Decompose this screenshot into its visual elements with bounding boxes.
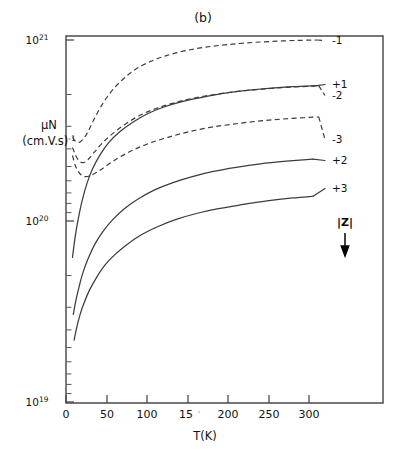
y-axis-title-line2: (cm.V.s)-1 — [22, 134, 76, 149]
series-label-+3: +3 — [332, 182, 347, 194]
x-axis-tick-labels: 0 50 100 15 200 250 300 — [63, 408, 320, 421]
series-label--2: -2 — [332, 89, 342, 101]
figure-panel-b: (b) — [0, 0, 407, 452]
curve-series-+2 — [73, 159, 313, 314]
leader-line--1 — [317, 40, 325, 41]
series-label-+1: +1 — [332, 78, 347, 90]
leader-line-+1 — [317, 85, 325, 86]
curve-series--1 — [72, 40, 317, 142]
leader-line-+3 — [313, 189, 325, 197]
ytick-label-1e19: 1019 — [26, 395, 49, 409]
curve-series--2 — [72, 86, 318, 163]
xtick-label-200: 200 — [218, 408, 239, 421]
xtick-label-100: 100 — [137, 408, 158, 421]
leader-line-+2 — [313, 159, 325, 160]
x-axis-title: T(K) — [192, 429, 217, 443]
curve-series--3 — [72, 117, 318, 177]
z-direction-arrow-head — [341, 246, 348, 256]
series-label-+2: +2 — [332, 154, 347, 166]
curve-series-+3 — [74, 196, 313, 340]
chart-svg: (b) — [0, 0, 407, 452]
xtick-label-0: 0 — [63, 408, 70, 421]
ytick-label-1e20: 1020 — [26, 214, 49, 228]
series-label--1: -1 — [332, 34, 342, 46]
leader-line--2 — [319, 86, 325, 96]
xtick-label-50: 50 — [100, 408, 114, 421]
curve-series-+1 — [72, 86, 317, 258]
y-axis-title-line1: μN — [41, 118, 57, 132]
xtick-label-150: 15 — [179, 408, 193, 421]
leader-line--3 — [319, 117, 325, 140]
series-label--3: -3 — [332, 133, 342, 145]
y-axis-tick-labels: 1021 1020 1019 — [26, 33, 49, 409]
data-curves — [72, 40, 325, 340]
xtick-label-150-faded-digit — [198, 411, 200, 413]
panel-title: (b) — [194, 10, 212, 25]
x-axis-ticks — [66, 395, 309, 403]
y-axis-title: μN (cm.V.s)-1 — [22, 118, 76, 148]
xtick-label-250: 250 — [259, 408, 280, 421]
xtick-label-300: 300 — [299, 408, 320, 421]
z-magnitude-annotation: |Z| — [337, 216, 353, 256]
ytick-label-1e21: 1021 — [26, 33, 49, 47]
series-labels: -1-2-3+1+2+3 — [332, 34, 347, 194]
z-magnitude-label: |Z| — [337, 216, 353, 229]
